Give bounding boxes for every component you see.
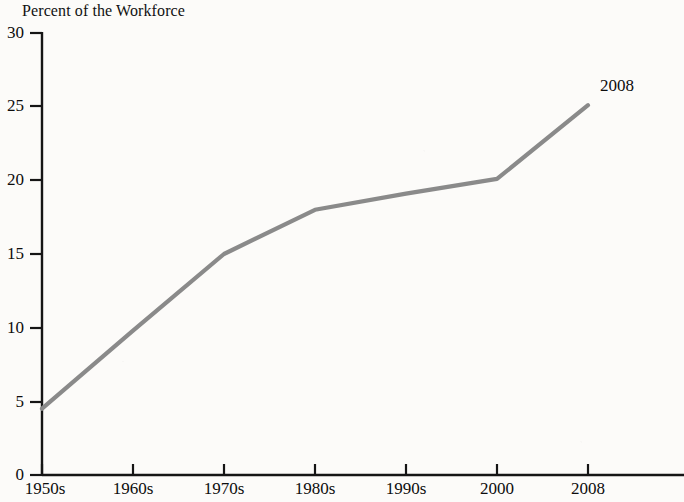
x-tick-label-1970s: 1970s [204,479,245,499]
y-tick-label-0: 0 [0,465,24,485]
y-tick-label-25: 25 [0,96,24,116]
x-axis-ticks [42,464,588,475]
data-series-line [42,105,588,409]
series-endpoint-annotation: 2008 [600,76,634,96]
y-tick-label-20: 20 [0,170,24,190]
x-tick-label-1960s: 1960s [113,479,154,499]
line-chart-plot [0,0,684,502]
y-tick-label-10: 10 [0,318,24,338]
x-tick-label-2008: 2008 [571,479,605,499]
x-tick-label-2000: 2000 [480,479,514,499]
x-tick-label-1950s: 1950s [25,479,66,499]
x-tick-label-1980s: 1980s [295,479,336,499]
y-tick-label-30: 30 [0,23,24,43]
y-tick-label-15: 15 [0,244,24,264]
x-tick-label-1990s: 1990s [386,479,427,499]
y-tick-label-5: 5 [0,392,24,412]
chart-figure: Percent of the Workforce 3 [0,0,684,502]
